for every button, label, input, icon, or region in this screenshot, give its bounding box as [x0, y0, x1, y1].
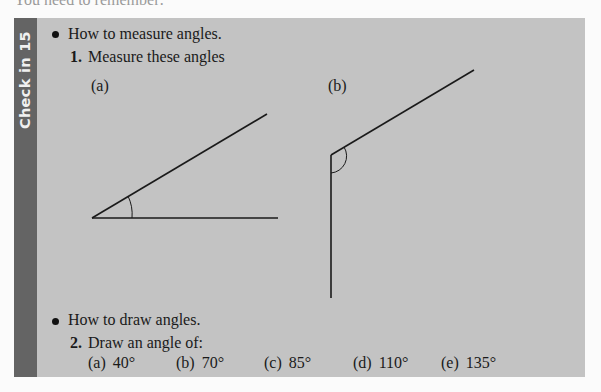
- option-c: (c)85°: [264, 354, 311, 372]
- question-2-text: Draw an angle of:: [88, 334, 203, 351]
- option-c-value: 85°: [289, 354, 311, 371]
- option-a-label: (a): [88, 354, 106, 371]
- clipped-heading: You need to remember:: [14, 0, 164, 9]
- topic-2-heading: How to draw angles.: [68, 312, 200, 328]
- option-b-value: 70°: [202, 354, 224, 371]
- angle-a-figure: [92, 114, 278, 218]
- check-in-box: Check in 15 How to measure angles. 1.Mea…: [14, 18, 585, 377]
- option-a: (a)40°: [88, 354, 135, 372]
- question-2: 2.Draw an angle of:: [70, 335, 203, 351]
- bullet-icon: [52, 318, 59, 325]
- option-e-label: (e): [441, 354, 459, 371]
- option-d: (d)110°: [353, 354, 408, 372]
- option-c-label: (c): [264, 354, 282, 371]
- option-a-value: 40°: [113, 354, 135, 371]
- question-2-number: 2.: [70, 334, 82, 351]
- option-d-value: 110°: [379, 354, 409, 371]
- option-e-value: 135°: [466, 354, 496, 371]
- option-d-label: (d): [353, 354, 372, 371]
- angle-b-figure: [331, 70, 474, 298]
- option-b-label: (b): [176, 354, 195, 371]
- option-e: (e)135°: [441, 354, 496, 372]
- option-b: (b)70°: [176, 354, 224, 372]
